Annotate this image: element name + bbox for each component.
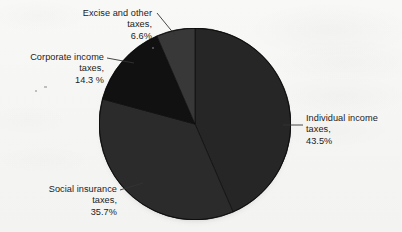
slice-label-line: taxes, bbox=[306, 124, 378, 135]
slice-label-individual-income-taxes: Individual income taxes, 43.5% bbox=[306, 113, 378, 147]
slice-label-excise-and-other-taxes: Excise and other taxes, 6.6% bbox=[48, 8, 152, 42]
slice-label-line: 14.3 % bbox=[0, 75, 104, 86]
pie-chart bbox=[99, 28, 291, 220]
slice-label-line: 43.5% bbox=[306, 136, 378, 147]
slice-label-line: taxes, bbox=[0, 63, 104, 74]
scan-speck bbox=[35, 90, 37, 92]
scan-speck bbox=[44, 86, 47, 88]
slice-label-line: 35.7% bbox=[13, 207, 117, 218]
pie-slices bbox=[99, 28, 291, 220]
slice-label-line: taxes, bbox=[13, 195, 117, 206]
slice-label-line: Corporate income bbox=[0, 52, 104, 63]
slice-label-social-insurance-taxes: Social insurance taxes, 35.7% bbox=[13, 184, 117, 218]
slice-label-line: Social insurance bbox=[13, 184, 117, 195]
slice-label-line: Individual income bbox=[306, 113, 378, 124]
slice-label-line: Excise and other bbox=[48, 8, 152, 19]
slice-label-line: taxes, bbox=[48, 19, 152, 30]
slice-label-corporate-income-taxes: Corporate income taxes, 14.3 % bbox=[0, 52, 104, 86]
slice-label-line: 6.6% bbox=[48, 31, 152, 42]
